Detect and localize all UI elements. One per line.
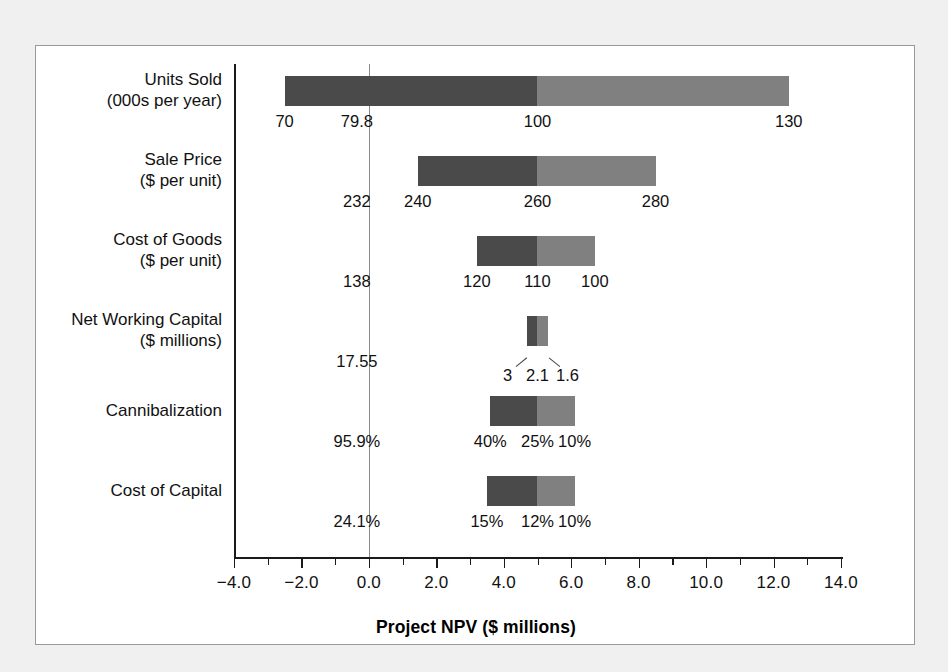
bar-6 [487,476,575,506]
value-label-low: 240 [404,192,432,211]
breakeven-value: 24.1% [333,512,380,531]
bar-2 [418,156,656,186]
axis-tick-minor [605,559,606,565]
bar-segment-optimistic [537,316,547,346]
axis-tick-major [301,559,302,568]
category-label: Cannibalization [36,400,222,421]
value-label-high: 100 [581,272,609,291]
axis-tick-label: 2.0 [424,573,448,593]
value-label-base: 25% [521,432,554,451]
bar-segment-pessimistic [490,396,537,426]
page-background: −4.0−2.00.02.04.06.08.010.012.014.0Proje… [0,0,948,672]
axis-tick-minor [470,559,471,565]
axis-tick-major [234,559,235,568]
breakeven-value: 232 [343,192,371,211]
category-label: Cost of Capital [36,480,222,501]
axis-tick-minor [740,559,741,565]
value-label-high: 10% [558,432,591,451]
axis-tick-major [639,559,640,568]
axis-tick-minor [672,559,673,565]
chart-panel: −4.0−2.00.02.04.06.08.010.012.014.0Proje… [35,45,915,645]
tornado-chart: −4.0−2.00.02.04.06.08.010.012.014.0Proje… [36,46,916,646]
bar-segment-optimistic [537,76,788,106]
axis-tick-label: 14.0 [824,573,858,593]
bar-segment-optimistic [537,236,594,266]
axis-tick-major [706,559,707,568]
value-label-low: 40% [474,432,507,451]
axis-tick-minor [538,559,539,565]
axis-tick-major [369,559,370,568]
bar-segment-pessimistic [527,316,537,346]
category-axis-line [234,64,236,557]
value-label-base: 260 [524,192,552,211]
value-label-high: 1.6 [556,366,579,385]
breakeven-value: 95.9% [333,432,380,451]
axis-tick-major [504,559,505,568]
axis-tick-minor [807,559,808,565]
axis-tick-major [774,559,775,568]
value-label-base: 2.1 [526,366,549,385]
axis-tick-label: −4.0 [217,573,251,593]
axis-tick-major [841,559,842,568]
value-label-base: 110 [524,272,550,291]
axis-tick-label: 4.0 [492,573,516,593]
bar-4 [527,316,547,346]
value-label-high: 130 [775,112,803,131]
value-label-low: 70 [275,112,293,131]
axis-tick-minor [268,559,269,565]
breakeven-value: 79.8 [341,112,373,131]
category-label: Net Working Capital ($ millions) [36,309,222,351]
bar-segment-optimistic [537,396,574,426]
leader-line [548,357,560,367]
bar-segment-pessimistic [487,476,538,506]
value-label-base: 100 [524,112,552,131]
axis-tick-major [571,559,572,568]
axis-tick-major [436,559,437,568]
bar-3 [477,236,595,266]
bar-1 [285,76,789,106]
bar-5 [490,396,574,426]
category-label: Cost of Goods ($ per unit) [36,229,222,271]
axis-tick-label: 12.0 [757,573,791,593]
value-label-low: 3 [503,366,512,385]
value-label-low: 120 [463,272,491,291]
category-label: Units Sold (000s per year) [36,69,222,111]
value-label-base: 12% [521,512,554,531]
value-label-low: 15% [470,512,503,531]
bar-segment-pessimistic [285,76,538,106]
axis-tick-minor [403,559,404,565]
axis-title: Project NPV ($ millions) [36,617,916,638]
breakeven-value: 138 [343,272,371,291]
value-label-high: 10% [558,512,591,531]
bar-segment-pessimistic [477,236,538,266]
axis-tick-label: 8.0 [627,573,651,593]
axis-tick-label: 0.0 [357,573,381,593]
bar-segment-optimistic [537,476,574,506]
breakeven-value: 17.55 [336,352,377,371]
bar-segment-pessimistic [418,156,538,186]
value-label-high: 280 [642,192,670,211]
category-label: Sale Price ($ per unit) [36,149,222,191]
axis-tick-minor [335,559,336,565]
axis-tick-label: 6.0 [559,573,583,593]
bar-segment-optimistic [537,156,655,186]
axis-tick-label: 10.0 [689,573,723,593]
zero-reference-line [369,64,371,557]
axis-tick-label: −2.0 [284,573,318,593]
